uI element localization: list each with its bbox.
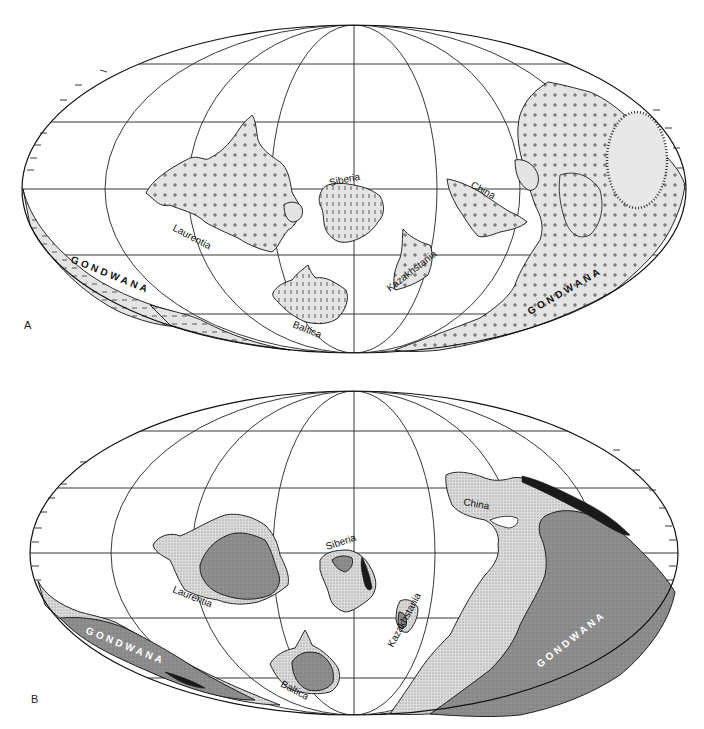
map-a-baltica-landmass	[273, 265, 348, 324]
map-a: Laurentia Siberia Baltica Kazakhstania C…	[0, 25, 704, 353]
map-b-label-kazakhstania: Kazakhstania	[385, 590, 423, 649]
map-b-label-siberia: Siberia	[324, 532, 357, 552]
map-b: Laurentia Siberia Baltica Kazakhstania C…	[0, 391, 704, 717]
map-a-gondwana-west-landmass	[23, 189, 200, 327]
map-a-siberia-landmass	[319, 183, 383, 242]
map-a-basin-oval	[607, 112, 667, 208]
map-a-laurentia-landmass	[146, 115, 302, 252]
panel-label-b: B	[31, 693, 38, 705]
figure-canvas: Laurentia Siberia Baltica Kazakhstania C…	[0, 0, 704, 729]
panel-label-a: A	[24, 319, 31, 331]
